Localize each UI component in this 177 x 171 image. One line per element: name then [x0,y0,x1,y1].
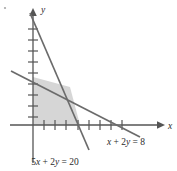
eq1-rhs: 20 [69,157,79,167]
eq2-plus: + [111,137,121,147]
feasible-region-shading [33,77,80,125]
coordinate-graph: y x 5x + 2y = 20 x + 2y = 8 [0,0,177,171]
constraint-line-x-2y-8 [11,71,140,137]
eq1-equals: = [59,157,69,167]
equation-label-x-2y-8: x + 2y = 8 [106,137,145,147]
figure-container: y x 5x + 2y = 20 x + 2y = 8 [0,0,177,171]
x-axis-arrowhead [157,121,165,129]
eq1-plus: + [40,157,50,167]
y-axis-label: y [40,5,46,15]
eq2-equals: = [130,137,140,147]
eq2-rhs: 8 [140,137,145,147]
scan-artifact-dot [4,7,6,9]
x-axis-label: x [167,121,173,131]
equation-label-5x-2y-20: 5x + 2y = 20 [31,157,79,167]
